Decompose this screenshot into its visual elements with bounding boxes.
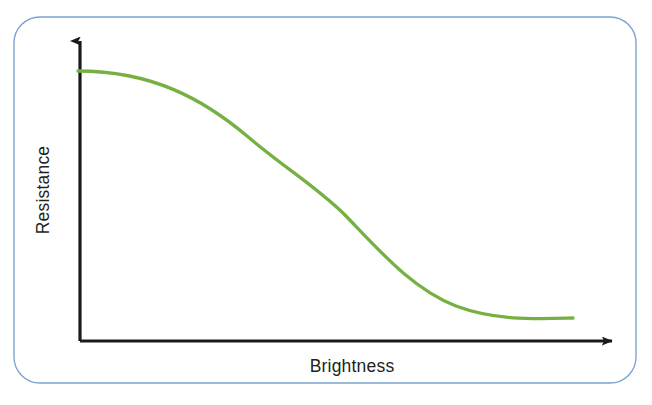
x-axis-label: Brightness [310, 356, 395, 376]
y-axis-label: Resistance [33, 146, 53, 235]
resistance-curve-path [78, 71, 573, 319]
chart-canvas: Brightness Resistance [0, 0, 652, 405]
figure-container: Brightness Resistance [0, 0, 652, 405]
